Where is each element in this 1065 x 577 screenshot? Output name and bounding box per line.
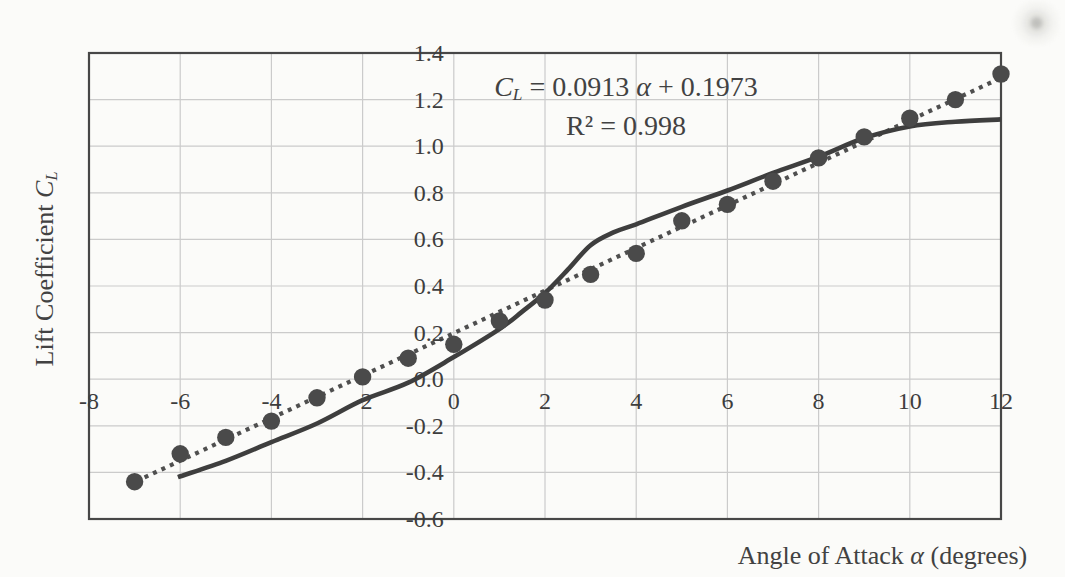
y-tick-label: 1.0 — [414, 133, 444, 159]
data-point-marker — [536, 291, 553, 308]
x-axis-title-units: (degrees) — [924, 541, 1027, 570]
data-point-marker — [308, 389, 325, 406]
data-point-marker — [719, 196, 736, 213]
y-tick-label: 1.4 — [414, 40, 444, 66]
data-point-marker — [901, 110, 918, 127]
data-point-marker — [856, 128, 873, 145]
y-tick-label: 0.6 — [414, 226, 444, 252]
x-tick-label: -4 — [261, 388, 281, 414]
y-axis-title-text: Lift Coefficient — [30, 198, 59, 366]
y-tick-label: -0.6 — [406, 506, 444, 532]
r-squared-text: R² = 0.998 — [441, 110, 811, 141]
fit-equation-intercept: + 0.1973 — [651, 71, 758, 102]
x-tick-label: 8 — [813, 388, 825, 414]
fit-equation-subscript: L — [513, 85, 523, 104]
data-point-marker — [810, 149, 827, 166]
x-tick-label: 2 — [539, 388, 551, 414]
data-point-marker — [354, 368, 371, 385]
x-tick-label: -2 — [353, 388, 373, 414]
y-axis-title-symbol: C — [30, 181, 59, 198]
fit-equation-variable: C — [494, 71, 513, 102]
fit-equation-alpha: α — [636, 71, 651, 102]
data-point-marker — [217, 429, 234, 446]
trendline-equation: CL = 0.0913 α + 0.1973 R² = 0.998 — [441, 71, 811, 141]
data-point-marker — [445, 336, 462, 353]
x-tick-label: 6 — [721, 388, 733, 414]
x-axis-title-symbol: α — [910, 541, 924, 570]
y-axis-title-subscript: L — [43, 172, 60, 181]
x-axis-title-text: Angle of Attack — [738, 541, 911, 570]
data-point-marker — [673, 212, 690, 229]
fit-equation-text: CL = 0.0913 α + 0.1973 — [441, 71, 811, 110]
x-tick-label: 4 — [630, 388, 642, 414]
y-tick-label: 0.2 — [414, 320, 444, 346]
y-tick-label: 0.8 — [414, 180, 444, 206]
data-point-marker — [992, 65, 1009, 82]
theory-curve — [178, 119, 1001, 477]
y-tick-label: 0.0 — [414, 366, 444, 392]
x-tick-label: 0 — [448, 388, 460, 414]
scanned-chart-page: -8-6-4-20246810121.41.21.00.80.60.40.20.… — [0, 0, 1065, 577]
y-axis-title: Lift Coefficient CL — [30, 109, 62, 429]
data-point-marker — [764, 173, 781, 190]
x-tick-label: -8 — [79, 388, 99, 414]
data-point-marker — [400, 350, 417, 367]
data-point-marker — [263, 412, 280, 429]
x-axis-title: Angle of Attack α (degrees) — [710, 541, 1055, 571]
data-point-marker — [491, 312, 508, 329]
x-tick-label: -6 — [170, 388, 190, 414]
y-tick-label: 1.2 — [414, 87, 444, 113]
data-point-marker — [947, 91, 964, 108]
y-tick-label: -0.2 — [406, 413, 444, 439]
x-tick-label: 12 — [989, 388, 1013, 414]
y-tick-label: 0.4 — [414, 273, 444, 299]
data-point-marker — [172, 445, 189, 462]
data-point-marker — [582, 266, 599, 283]
data-point-marker — [628, 245, 645, 262]
fit-equation-coefficient: = 0.0913 — [523, 71, 637, 102]
data-point-marker — [126, 473, 143, 490]
x-tick-label: 10 — [898, 388, 922, 414]
y-tick-label: -0.4 — [406, 459, 444, 485]
